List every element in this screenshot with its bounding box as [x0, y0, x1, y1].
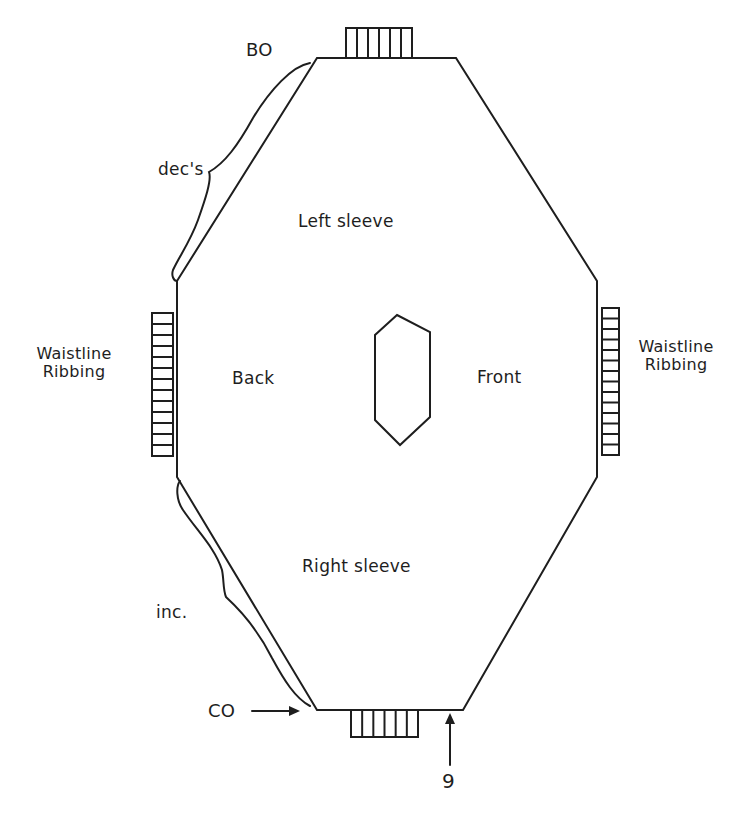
left-waistline-ribbing — [152, 313, 173, 456]
left-waistline-ribbing-label: Waistline Ribbing — [28, 345, 120, 382]
cast-on-label: CO — [208, 701, 235, 722]
increases-label: inc. — [156, 603, 187, 623]
right-waistline-ribbing — [602, 308, 619, 455]
neck-opening — [375, 315, 430, 445]
decreases-label: dec's — [158, 160, 204, 180]
left-sleeve-label: Left sleeve — [298, 212, 394, 232]
marker-arrow — [445, 713, 455, 765]
back-label: Back — [232, 369, 274, 389]
sweater-schematic — [0, 0, 741, 826]
top-cuff-ribbing — [346, 28, 412, 58]
front-label: Front — [477, 368, 522, 388]
marker-label: 9 — [442, 770, 455, 793]
cast-on-arrow — [252, 706, 300, 716]
increases-brace — [177, 481, 310, 706]
right-waistline-ribbing-label: Waistline Ribbing — [630, 338, 722, 375]
bottom-cuff-ribbing — [351, 710, 418, 737]
right-sleeve-label: Right sleeve — [302, 557, 411, 577]
bind-off-label: BO — [246, 40, 273, 61]
